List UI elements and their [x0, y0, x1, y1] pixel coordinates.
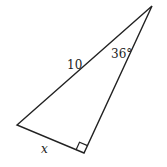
- hypotenuse-label: 10: [67, 58, 82, 72]
- side-x-label: x: [41, 142, 48, 156]
- angle-label: 36°: [111, 47, 132, 61]
- triangle-svg: 10 36° x: [0, 0, 167, 167]
- triangle-outline: [17, 6, 152, 153]
- triangle-diagram: 10 36° x: [0, 0, 167, 167]
